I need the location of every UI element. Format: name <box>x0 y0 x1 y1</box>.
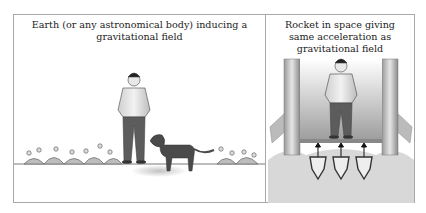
flowers-icon <box>24 144 122 164</box>
rocket-acceleration-panel: Rocket in space giving same acceleration… <box>265 14 415 203</box>
man-figure <box>118 73 150 164</box>
rocket-nozzles <box>310 157 372 179</box>
earth-scene-illustration <box>14 15 267 204</box>
rocket-wall-right <box>382 59 398 155</box>
rocket-scene-illustration <box>266 15 416 204</box>
earth-gravity-panel: Earth (or any astronomical body) inducin… <box>13 14 266 203</box>
rocket-wall-left <box>284 59 300 155</box>
flowers-icon <box>217 147 258 164</box>
